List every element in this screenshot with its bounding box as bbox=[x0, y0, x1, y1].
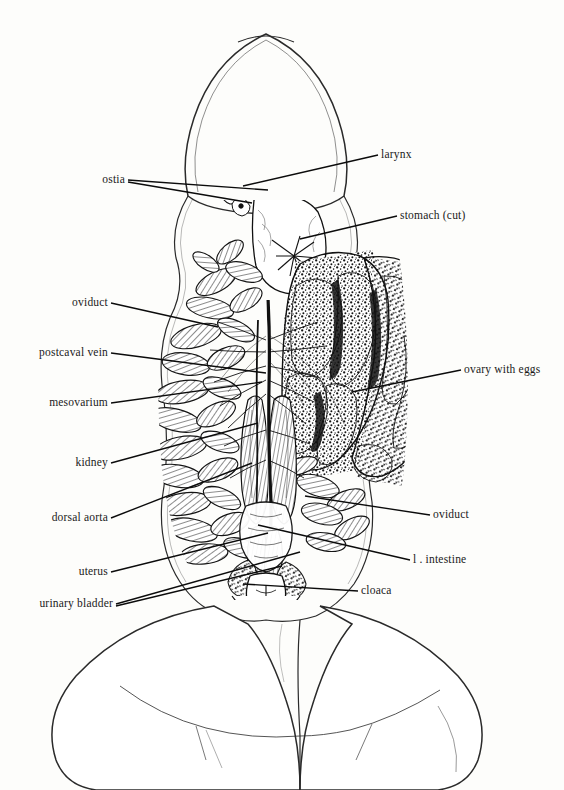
leader-line-ostia-2 bbox=[128, 182, 252, 203]
head-outline bbox=[185, 34, 347, 214]
label-ostia: ostia bbox=[102, 174, 125, 186]
label-larynx: larynx bbox=[381, 149, 412, 161]
leader-line-larynx bbox=[243, 155, 378, 186]
label-oviduct-right: oviduct bbox=[433, 509, 469, 521]
dorsal-aorta bbox=[256, 320, 258, 520]
label-l-intestine: l . intestine bbox=[413, 554, 466, 566]
label-kidney: kidney bbox=[76, 457, 109, 469]
label-cloaca: cloaca bbox=[361, 585, 392, 597]
thigh-right bbox=[300, 606, 482, 790]
label-dorsal-aorta: dorsal aorta bbox=[52, 512, 108, 524]
label-mesovarium: mesovarium bbox=[49, 397, 108, 409]
label-ovary-with-eggs: ovary with eggs bbox=[464, 364, 540, 376]
label-postcaval-vein: postcaval vein bbox=[39, 347, 108, 359]
label-uterus: uterus bbox=[79, 566, 108, 578]
label-urinary-bladder: urinary bladder bbox=[39, 598, 113, 610]
label-oviduct-left: oviduct bbox=[72, 297, 108, 309]
frog-dissection-figure bbox=[0, 0, 564, 790]
label-stomach-cut: stomach (cut) bbox=[400, 210, 466, 222]
thigh-left bbox=[52, 606, 300, 790]
